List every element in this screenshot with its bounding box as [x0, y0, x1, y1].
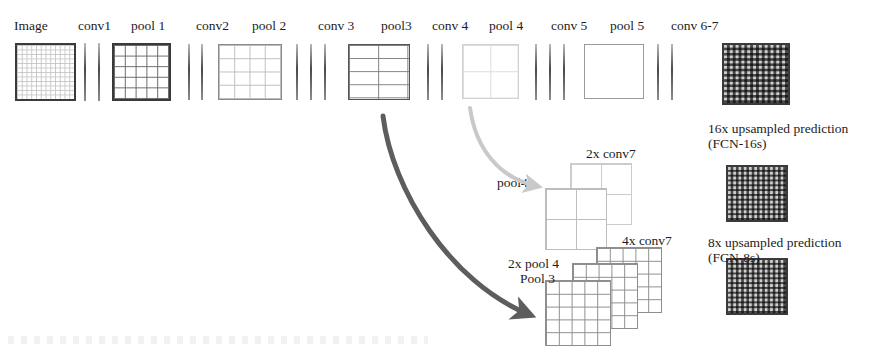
scan-artifact-strip [8, 336, 428, 344]
pool4-skip-arrow [470, 108, 536, 186]
skip-connection-arrows [0, 0, 888, 350]
diagram-canvas: Imageconv1pool 1conv2pool 2conv 3pool3co… [0, 0, 888, 350]
pool3-skip-arrow [383, 116, 528, 314]
